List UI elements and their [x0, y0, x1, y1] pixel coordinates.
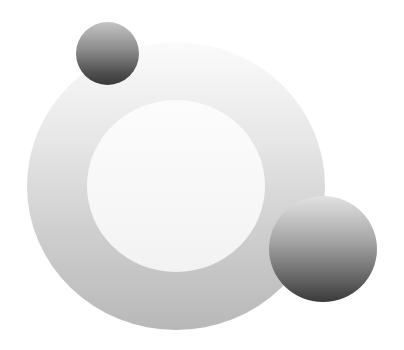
graphic-canvas: Abstract logo-like graphic: large gray g… — [0, 0, 404, 350]
small-sphere-shape — [76, 22, 139, 85]
large-sphere-shape — [269, 196, 377, 302]
inner-disc-shape — [87, 100, 265, 272]
